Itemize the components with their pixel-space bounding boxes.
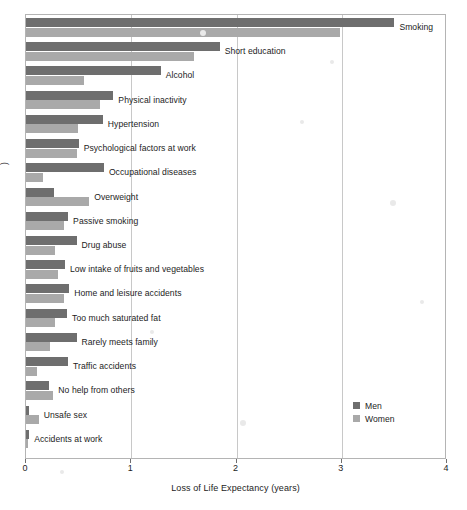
- bar-men: [26, 18, 394, 27]
- x-axis-title: Loss of Life Expectancy (years): [25, 483, 446, 493]
- bar-category-label: Alcohol: [166, 70, 195, 80]
- bar-women: [26, 270, 58, 279]
- bar-group: Accidents at work: [26, 430, 447, 449]
- scan-artifact: [200, 30, 206, 36]
- legend-item: Women: [353, 413, 394, 424]
- bar-women: [26, 173, 43, 182]
- bar-men: [26, 236, 77, 245]
- bar-group: Alcohol: [26, 66, 447, 85]
- plot-area: SmokingShort educationAlcoholPhysical in…: [25, 14, 446, 459]
- legend: MenWomen: [353, 400, 394, 426]
- bar-group: Traffic accidents: [26, 357, 447, 376]
- bar-women: [26, 28, 340, 37]
- bar-category-label: Occupational diseases: [109, 167, 197, 177]
- legend-label: Men: [365, 401, 382, 411]
- bar-men: [26, 357, 68, 366]
- bar-women: [26, 221, 64, 230]
- bar-group: Smoking: [26, 18, 447, 37]
- bar-women: [26, 415, 39, 424]
- bar-category-label: Unsafe sex: [44, 410, 88, 420]
- bar-men: [26, 381, 49, 390]
- bar-women: [26, 246, 55, 255]
- bar-category-label: Rarely meets family: [82, 337, 158, 347]
- bar-group: Hypertension: [26, 115, 447, 134]
- bar-category-label: Overweight: [94, 192, 138, 202]
- scan-artifact: [330, 60, 334, 64]
- bar-category-label: Low intake of fruits and vegetables: [70, 264, 204, 274]
- bar-group: Occupational diseases: [26, 163, 447, 182]
- bar-group: Home and leisure accidents: [26, 284, 447, 303]
- bar-men: [26, 333, 77, 342]
- scan-artifact: [240, 420, 246, 426]
- scan-artifact: [300, 120, 304, 124]
- bar-women: [26, 439, 28, 448]
- bar-women: [26, 342, 50, 351]
- bar-group: Low intake of fruits and vegetables: [26, 260, 447, 279]
- bar-category-label: Hypertension: [108, 119, 159, 129]
- bar-men: [26, 91, 113, 100]
- bar-women: [26, 124, 78, 133]
- bar-men: [26, 163, 104, 172]
- x-tick-label: 0: [22, 463, 27, 473]
- legend-item: Men: [353, 400, 394, 411]
- bar-chart: ) SmokingShort educationAlcoholPhysical …: [0, 0, 467, 510]
- bar-women: [26, 391, 53, 400]
- bar-category-label: Traffic accidents: [73, 361, 136, 371]
- bar-women: [26, 100, 100, 109]
- bar-category-label: Drug abuse: [82, 240, 127, 250]
- x-tick-label: 4: [443, 463, 448, 473]
- bar-group: Overweight: [26, 188, 447, 207]
- bar-category-label: Psychological factors at work: [84, 143, 196, 153]
- bar-men: [26, 430, 29, 439]
- bar-group: Short education: [26, 42, 447, 61]
- bar-women: [26, 367, 37, 376]
- bar-group: Rarely meets family: [26, 333, 447, 352]
- legend-swatch-icon: [353, 415, 360, 422]
- scan-artifact: [390, 200, 396, 206]
- bar-category-label: Accidents at work: [34, 434, 102, 444]
- bar-group: Drug abuse: [26, 236, 447, 255]
- bar-category-label: Home and leisure accidents: [74, 288, 181, 298]
- bar-category-label: Too much saturated fat: [72, 313, 161, 323]
- bar-category-label: Physical inactivity: [118, 95, 186, 105]
- bar-men: [26, 406, 29, 415]
- bar-category-label: Passive smoking: [73, 216, 138, 226]
- bar-men: [26, 284, 69, 293]
- bar-group: No help from others: [26, 381, 447, 400]
- bar-men: [26, 260, 65, 269]
- bar-men: [26, 115, 103, 124]
- bar-women: [26, 197, 89, 206]
- scan-artifact: [150, 330, 154, 334]
- bar-group: Psychological factors at work: [26, 139, 447, 158]
- x-tick-label: 3: [338, 463, 343, 473]
- bar-men: [26, 212, 68, 221]
- bar-women: [26, 294, 64, 303]
- bar-men: [26, 188, 54, 197]
- bar-women: [26, 318, 55, 327]
- bar-men: [26, 66, 161, 75]
- legend-swatch-icon: [353, 402, 360, 409]
- bar-group: Too much saturated fat: [26, 309, 447, 328]
- bar-group: Passive smoking: [26, 212, 447, 231]
- legend-label: Women: [365, 414, 394, 424]
- y-axis-label-fragment: ): [0, 85, 9, 165]
- bar-men: [26, 42, 220, 51]
- bar-category-label: No help from others: [58, 385, 134, 395]
- bar-women: [26, 76, 84, 85]
- scan-artifact: [60, 470, 64, 474]
- bar-men: [26, 139, 79, 148]
- scan-artifact: [420, 300, 424, 304]
- bar-category-label: Short education: [225, 46, 286, 56]
- x-tick-label: 2: [233, 463, 238, 473]
- bar-women: [26, 52, 194, 61]
- x-tick-label: 1: [128, 463, 133, 473]
- bar-group: Physical inactivity: [26, 91, 447, 110]
- bar-men: [26, 309, 67, 318]
- bar-women: [26, 149, 77, 158]
- bar-category-label: Smoking: [399, 22, 433, 32]
